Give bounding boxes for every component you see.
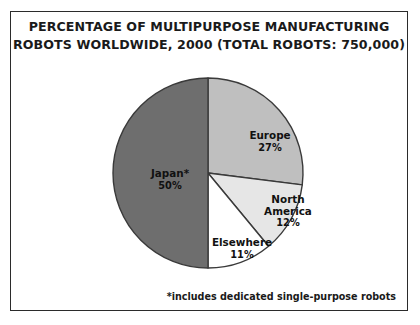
chart-footnote: *includes dedicated single-purpose robot… bbox=[167, 291, 396, 302]
pie-label-japan-value: 50% bbox=[151, 180, 189, 192]
pie-label-japan: Japan* 50% bbox=[151, 168, 189, 191]
pie-label-north-america-name-line1: North bbox=[264, 194, 312, 206]
pie-label-north-america-value: 12% bbox=[264, 217, 312, 229]
chart-frame: PERCENTAGE OF MULTIPURPOSE MANUFACTURING… bbox=[10, 11, 408, 311]
pie-label-elsewhere-name: Elsewhere bbox=[212, 237, 272, 249]
pie-label-elsewhere: Elsewhere 11% bbox=[212, 237, 272, 260]
pie-chart bbox=[11, 12, 409, 312]
pie-label-japan-name: Japan* bbox=[151, 168, 189, 180]
pie-label-elsewhere-value: 11% bbox=[212, 249, 272, 261]
pie-label-north-america: North America 12% bbox=[264, 194, 312, 229]
pie-slice-group bbox=[113, 78, 303, 268]
pie-label-europe-name: Europe bbox=[249, 130, 290, 142]
pie-label-europe-value: 27% bbox=[249, 142, 290, 154]
pie-label-europe: Europe 27% bbox=[249, 130, 290, 153]
pie-label-north-america-name-line2: America bbox=[264, 205, 312, 217]
